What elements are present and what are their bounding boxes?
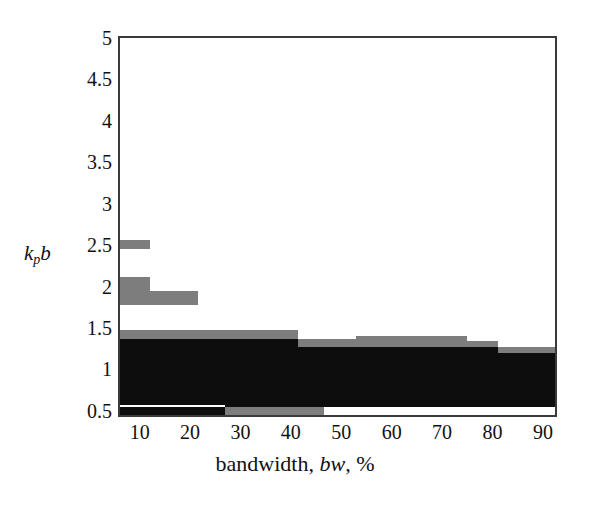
- data-region-gray-band-main: [298, 339, 356, 347]
- data-region-black-band-main: [498, 353, 555, 415]
- y-tick-4: 4: [58, 111, 112, 131]
- plot-area: [118, 36, 557, 417]
- y-tick-1-5: 1.5: [58, 318, 112, 338]
- y-tick-0-5: 0.5: [58, 401, 112, 421]
- x-tick-60: 60: [372, 421, 412, 443]
- y-tick-3-5: 3.5: [58, 152, 112, 172]
- x-axis-title-post: , %: [345, 451, 374, 476]
- y-tick-3: 3: [58, 194, 112, 214]
- data-region-gray-band-upper-2: [120, 277, 150, 304]
- x-tick-70: 70: [422, 421, 462, 443]
- x-tick-90: 90: [523, 421, 563, 443]
- data-region-black-band-main: [467, 347, 497, 415]
- data-region-gray-band-upper-2: [150, 291, 198, 305]
- x-tick-20: 20: [170, 421, 210, 443]
- data-region-black-band-main: [298, 347, 356, 415]
- x-tick-50: 50: [321, 421, 361, 443]
- plot-region-layer: [120, 38, 555, 415]
- x-tick-80: 80: [472, 421, 512, 443]
- y-tick-4-5: 4.5: [58, 69, 112, 89]
- y-axis-tick-labels: 0.511.522.533.544.55: [52, 0, 112, 460]
- chart-figure: kpb 0.511.522.533.544.55 102030405060708…: [0, 0, 590, 511]
- data-region-black-band-main: [356, 347, 467, 415]
- x-tick-10: 10: [120, 421, 160, 443]
- data-region-gray-band-main: [120, 330, 298, 339]
- y-tick-1: 1: [58, 359, 112, 379]
- x-tick-40: 40: [271, 421, 311, 443]
- data-region-bottom-gray-strip: [225, 407, 323, 415]
- data-region-gray-band-main: [356, 336, 467, 347]
- y-tick-5: 5: [58, 28, 112, 48]
- x-axis-title-pre: bandwidth,: [216, 451, 320, 476]
- y-axis-title-b: b: [40, 241, 51, 265]
- data-region-bottom-white-strip: [120, 405, 225, 407]
- x-tick-30: 30: [220, 421, 260, 443]
- x-axis-tick-labels: 102030405060708090: [0, 421, 590, 447]
- data-region-bottom-white-strip-right: [324, 407, 555, 415]
- y-tick-2: 2: [58, 277, 112, 297]
- y-axis-title-k: k: [24, 241, 33, 265]
- data-region-gray-band-upper-1: [120, 240, 150, 249]
- x-axis-title: bandwidth, bw, %: [0, 452, 590, 476]
- y-axis-title: kpb: [24, 243, 51, 270]
- y-tick-2-5: 2.5: [58, 235, 112, 255]
- x-axis-title-bw: bw: [319, 451, 345, 476]
- data-region-black-band-main: [120, 339, 298, 415]
